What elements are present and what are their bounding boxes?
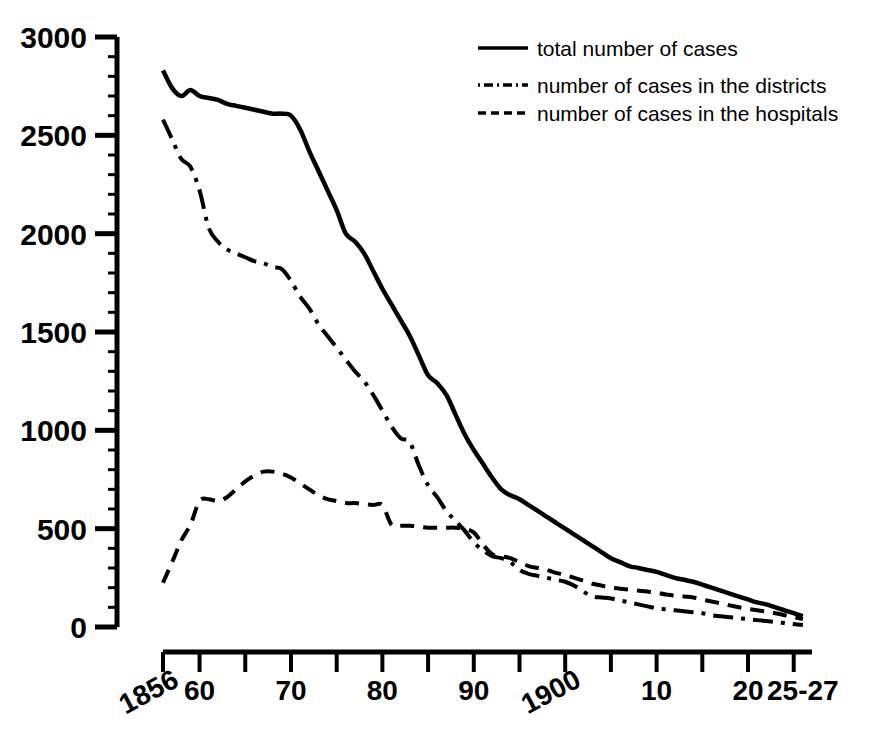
y-axis-tick-labels: 050010001500200025003000 <box>20 21 87 644</box>
y-axis-tick-label: 1000 <box>20 414 87 447</box>
y-axis-tick-label: 2000 <box>20 218 87 251</box>
x-axis-tick-label: 80 <box>367 675 398 706</box>
legend-label-1: total number of cases <box>537 37 738 60</box>
x-axis-tick-labels: 1856607080901900102025-27 <box>114 663 839 720</box>
x-axis-tick-label: 60 <box>184 675 215 706</box>
chart-series-lines <box>163 70 803 625</box>
chart-container: 050010001500200025003000 185660708090190… <box>0 0 881 738</box>
legend-label-3: number of cases in the hospitals <box>537 102 838 125</box>
line-chart: 050010001500200025003000 185660708090190… <box>0 0 881 738</box>
x-axis-tick-label: 90 <box>458 675 489 706</box>
series-line-3 <box>163 471 803 619</box>
y-axis-tick-label: 3000 <box>20 21 87 54</box>
series-line-1 <box>163 70 803 616</box>
series-line-2 <box>163 120 803 625</box>
y-axis-tick-label: 1500 <box>20 316 87 349</box>
x-axis-tick-label: 10 <box>641 675 672 706</box>
y-axis-tick-label: 500 <box>37 513 87 546</box>
x-axis-tick-label: 70 <box>275 675 306 706</box>
x-axis-tick-label: 1900 <box>516 663 586 720</box>
x-axis-tick-label: 1856 <box>114 663 184 720</box>
x-axis-tick-label: 25-27 <box>767 675 839 706</box>
y-axis <box>95 37 117 627</box>
legend-label-2: number of cases in the districts <box>537 74 826 97</box>
x-axis-tick-label: 20 <box>732 675 763 706</box>
chart-legend: total number of casesnumber of cases in … <box>478 37 838 125</box>
y-axis-tick-label: 0 <box>70 611 87 644</box>
x-axis <box>163 652 812 672</box>
y-axis-tick-label: 2500 <box>20 119 87 152</box>
